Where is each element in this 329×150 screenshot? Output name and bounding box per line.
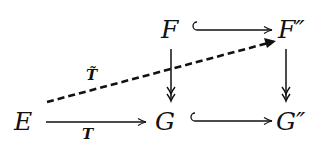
node-E: E: [14, 109, 32, 134]
label-T: T: [82, 127, 93, 142]
inclusion-arrow-F-to-F2: [193, 22, 272, 30]
label-T-tilde: T̃: [86, 68, 97, 83]
node-G-double-prime: G″: [276, 109, 305, 134]
surjection-arrow-F2-to-G2: [282, 49, 290, 101]
node-F-double-prime: F″: [278, 17, 305, 42]
node-F: F: [161, 17, 178, 42]
commutative-diagram: F F″ E G G″ T T̃: [0, 0, 329, 150]
surjection-arrow-F-to-G: [167, 49, 175, 101]
dashed-arrow-E-to-F2: [47, 38, 276, 102]
node-G: G: [155, 109, 175, 134]
inclusion-arrow-G-to-G2: [191, 113, 272, 121]
